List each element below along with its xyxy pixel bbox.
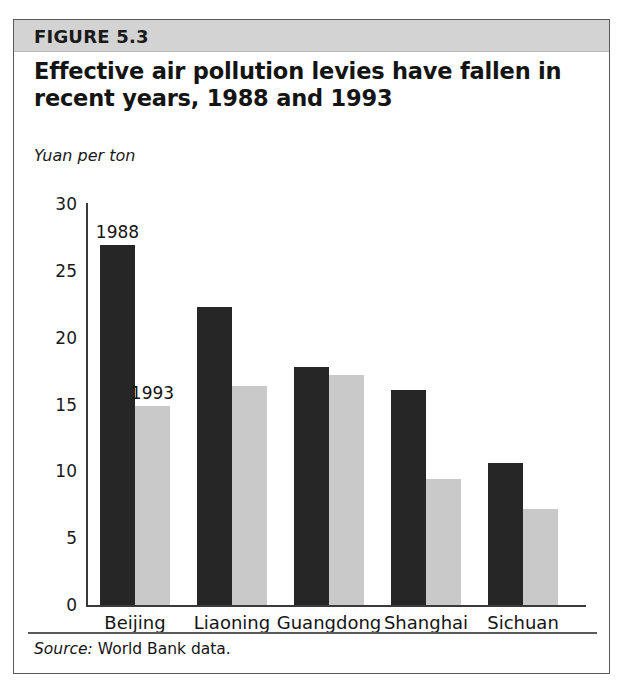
- y-tick-label: 5: [33, 528, 77, 548]
- source-note: Source: World Bank data.: [34, 640, 231, 658]
- source-divider: [28, 632, 597, 634]
- y-tick-label: 0: [33, 595, 77, 615]
- bar-shanghai-1988: [391, 390, 426, 605]
- series-annotation-1988: 1988: [96, 222, 139, 242]
- x-tick-label-beijing: Beijing: [104, 612, 165, 633]
- x-tick-label-guangdong: Guangdong: [277, 612, 382, 633]
- bar-liaoning-1988: [197, 307, 232, 605]
- source-text: World Bank data.: [98, 640, 231, 658]
- y-tick-label: 30: [33, 194, 77, 214]
- y-tick-label: 10: [33, 461, 77, 481]
- bar-guangdong-1988: [294, 367, 329, 605]
- bar-shanghai-1993: [426, 479, 461, 605]
- y-axis-line: [86, 203, 88, 606]
- y-tick-label: 20: [33, 328, 77, 348]
- bar-liaoning-1993: [232, 386, 267, 605]
- source-label: Source:: [34, 640, 93, 658]
- x-tick-label-shanghai: Shanghai: [384, 612, 468, 633]
- x-axis-line: [86, 605, 586, 607]
- bar-guangdong-1993: [329, 375, 364, 605]
- y-tick-label: 15: [33, 395, 77, 415]
- y-tick-label: 25: [33, 261, 77, 281]
- bar-sichuan-1988: [488, 463, 523, 605]
- series-annotation-1993: 1993: [131, 383, 174, 403]
- figure-card: FIGURE 5.3 Effective air pollution levie…: [13, 19, 610, 674]
- bar-beijing-1988: [100, 245, 135, 605]
- bar-beijing-1993: [135, 406, 170, 605]
- x-tick-label-sichuan: Sichuan: [487, 612, 559, 633]
- bar-sichuan-1993: [523, 509, 558, 605]
- x-tick-label-liaoning: Liaoning: [194, 612, 270, 633]
- bar-chart-plot-area: 051015202530 19881993 BeijingLiaoningGua…: [14, 20, 611, 675]
